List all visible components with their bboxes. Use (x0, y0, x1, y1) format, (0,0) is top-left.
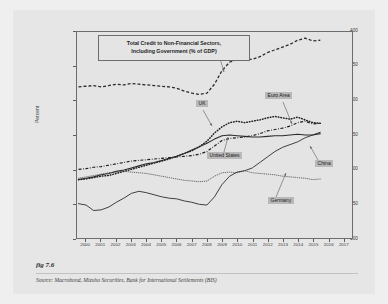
x-tick-mark (313, 239, 314, 242)
x-tick-label: 2000 (80, 242, 90, 247)
figure-container: Percent 100150200250300350400 2000200120… (14, 11, 374, 293)
x-tick-label: 2016 (324, 242, 334, 247)
series-label-euro-area: Euro Area (265, 92, 292, 99)
y-tick-mark (73, 239, 76, 240)
x-tick-mark (329, 239, 330, 242)
x-tick-mark (207, 239, 208, 242)
x-tick-label: 2017 (339, 242, 349, 247)
x-tick-label: 2005 (156, 242, 166, 247)
series-line-uk (79, 116, 321, 179)
x-tick-label: 2002 (111, 242, 121, 247)
x-tick-mark (100, 239, 101, 242)
plot-area (76, 31, 353, 239)
x-tick-mark (176, 239, 177, 242)
x-tick-mark (161, 239, 162, 242)
x-tick-label: 2009 (217, 242, 227, 247)
x-tick-mark (268, 239, 269, 242)
caption-divider (36, 273, 358, 274)
x-tick-label: 2011 (248, 242, 258, 247)
series-lines (77, 32, 352, 238)
x-tick-label: 2013 (278, 242, 288, 247)
x-tick-mark (237, 239, 238, 242)
x-tick-mark (283, 239, 284, 242)
source-note: Source: Macrobond, Mizuho Securities, Ba… (36, 277, 217, 283)
series-label-germany: Germany (268, 197, 294, 204)
series-label-uk: UK (196, 100, 208, 107)
x-tick-label: 2008 (202, 242, 212, 247)
x-tick-mark (298, 239, 299, 242)
figure-caption: fig 7.6 (36, 261, 54, 269)
chart-title-line-1: Total Credit to Non-Financial Sectors, (104, 40, 244, 48)
x-tick-mark (253, 239, 254, 242)
x-tick-label: 2010 (232, 242, 242, 247)
chart-panel: Percent 100150200250300350400 2000200120… (36, 27, 358, 255)
x-tick-mark (146, 239, 147, 242)
x-tick-mark (192, 239, 193, 242)
x-tick-mark (116, 239, 117, 242)
series-line-euro-area (79, 121, 321, 169)
x-tick-label: 2004 (141, 242, 151, 247)
series-line-united-states (79, 134, 321, 180)
x-tick-label: 2006 (171, 242, 181, 247)
x-tick-mark (131, 239, 132, 242)
chart-title-line-2: Including Government (% of GDP) (104, 48, 244, 56)
x-tick-label: 2007 (187, 242, 197, 247)
x-tick-label: 2014 (293, 242, 303, 247)
x-tick-label: 2003 (126, 242, 136, 247)
x-tick-mark (222, 239, 223, 242)
x-tick-label: 2012 (263, 242, 273, 247)
x-tick-label: 2015 (308, 242, 318, 247)
series-label-china: China (315, 160, 333, 167)
series-label-united-states: United States (207, 152, 242, 159)
chart-title-box: Total Credit to Non-Financial Sectors, I… (98, 35, 250, 61)
x-tick-mark (85, 239, 86, 242)
x-tick-label: 2001 (95, 242, 105, 247)
y-axis-title: Percent (34, 106, 40, 123)
x-tick-mark (344, 239, 345, 242)
